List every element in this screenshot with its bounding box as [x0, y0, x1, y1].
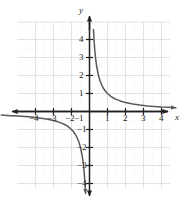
x-tick-label-1: 1 — [105, 114, 110, 123]
x-tick-label--3: −3 — [47, 114, 57, 123]
y-tick-label-4: 4 — [79, 35, 84, 44]
y-tick-label-2: 2 — [79, 71, 84, 80]
y-tick-label--2: −2 — [77, 143, 87, 152]
x-tick-label-3: 3 — [141, 114, 146, 123]
y-axis-label: y — [79, 6, 83, 15]
x-tick-label-2: 2 — [123, 114, 128, 123]
y-tick-label-1: 1 — [79, 89, 84, 98]
y-tick-label--4: −4 — [77, 179, 87, 188]
y-tick-label-3: 3 — [79, 53, 84, 62]
minor-grid — [18, 22, 171, 188]
x-tick-label-4: 4 — [159, 114, 164, 123]
major-grid — [18, 22, 171, 188]
x-tick-label--4: −4 — [29, 114, 39, 123]
y-axis — [86, 16, 93, 196]
plot-canvas — [0, 0, 188, 203]
graph-figure: −4 −3 −2 −1 1 2 3 4 4 3 2 1 −1 −2 −3 −4 … — [0, 0, 188, 203]
y-tick-label--1: −1 — [77, 125, 87, 134]
x-axis-label: x — [175, 113, 179, 122]
x-tick-label--1: −1 — [74, 114, 84, 123]
y-tick-label--3: −3 — [77, 161, 87, 170]
curve-branch-negative — [1, 115, 85, 193]
